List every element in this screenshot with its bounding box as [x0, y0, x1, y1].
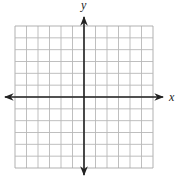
- x-axis-label: x: [168, 90, 175, 104]
- axes: [5, 17, 163, 175]
- coordinate-plane: x y: [0, 0, 177, 176]
- y-axis-label: y: [80, 0, 87, 12]
